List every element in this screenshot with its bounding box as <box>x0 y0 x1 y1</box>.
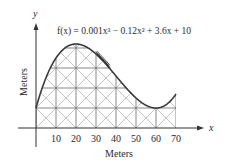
y-axis-symbol: y <box>32 8 38 19</box>
x-axis-arrow-icon <box>197 126 204 131</box>
x-tick-label: 70 <box>171 133 181 144</box>
x-tick-label: 50 <box>131 133 141 144</box>
roller-coaster-chart: x y f(x) = 0.001x³ − 0.12x² + 3.6x + 10 … <box>0 0 231 167</box>
x-tick-label: 20 <box>71 133 81 144</box>
x-tick-label: 40 <box>111 133 121 144</box>
support-lattice <box>36 28 176 128</box>
coaster-car-icon <box>96 51 110 68</box>
y-axis-title: Meters <box>18 68 29 96</box>
track-curve <box>36 44 176 108</box>
x-tick-labels: 10203040506070 <box>51 133 181 144</box>
x-tick-label: 30 <box>91 133 101 144</box>
x-axis-title: Meters <box>105 148 133 159</box>
x-tick-label: 10 <box>51 133 61 144</box>
x-tick-label: 60 <box>151 133 161 144</box>
x-axis-symbol: x <box>208 122 214 133</box>
y-axis-arrow-icon <box>34 23 39 30</box>
equation-label: f(x) = 0.001x³ − 0.12x² + 3.6x + 10 <box>57 26 191 37</box>
